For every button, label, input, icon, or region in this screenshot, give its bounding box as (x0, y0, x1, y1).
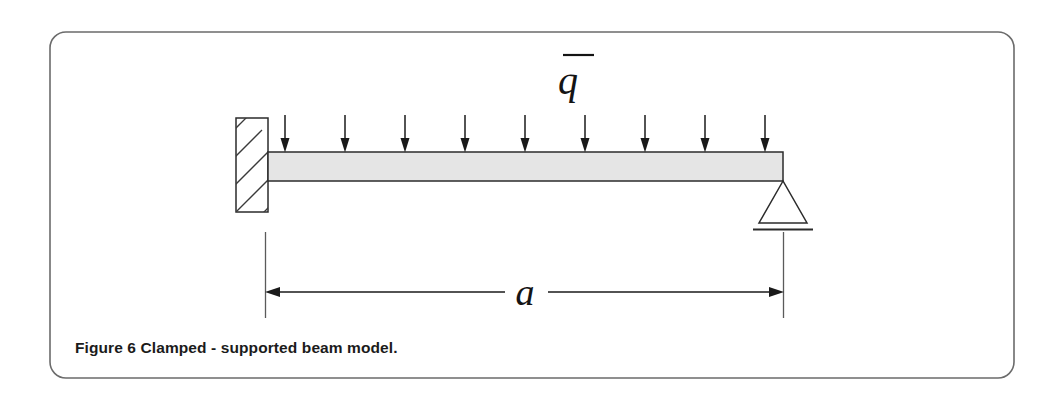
figure-caption: Figure 6 Clamped - supported beam model. (75, 339, 398, 356)
figure-border (50, 32, 1014, 378)
beam-diagram: q a Figure 6 Clamped - supported beam mo… (0, 0, 1063, 398)
dimension-label: a (516, 271, 535, 313)
clamped-support-block (236, 118, 268, 212)
beam (268, 152, 783, 181)
figure-container: q a Figure 6 Clamped - supported beam mo… (0, 0, 1063, 398)
load-label: q (558, 58, 578, 103)
